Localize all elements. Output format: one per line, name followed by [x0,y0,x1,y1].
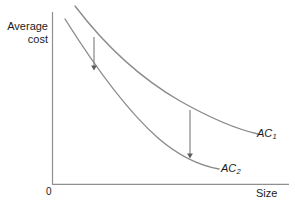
origin-label: 0 [46,186,52,198]
curve-ac1 [75,6,258,134]
curve-label-ac1-subscript: 1 [272,132,276,141]
curve-label-ac2: AC2 [221,162,240,175]
x-axis-title: Size [256,187,277,200]
average-cost-curve-figure: Average cost Size 0 AC1 AC2 [0,0,295,204]
curve-label-ac2-subscript: 2 [236,167,240,176]
curve-label-ac1: AC1 [257,127,276,140]
curve-ac2 [65,19,219,169]
curve-label-ac2-text: AC [221,162,236,174]
y-axis-title: Average cost [2,20,48,46]
y-axis-title-line2: cost [2,33,48,46]
y-axis-title-line1: Average [7,20,48,32]
curve-label-ac1-text: AC [257,127,272,139]
